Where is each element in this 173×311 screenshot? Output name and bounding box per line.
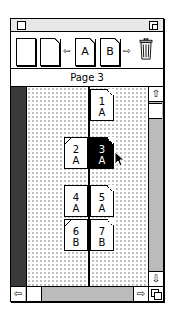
page-master: A [91,155,113,166]
title-bar[interactable] [11,19,163,32]
page-layout-window: ⇦ A B ⇨ Page 3 1 A 2 A 3 A [10,18,164,302]
right-arrow-icon[interactable]: ⇨ [123,47,131,56]
blank-page-icon[interactable] [16,38,36,66]
scroll-up-button[interactable]: ⇧ [149,87,163,102]
page-number: 4 [65,192,87,203]
page-number: 7 [91,226,113,237]
page-master: A [65,203,87,214]
master-a-icon[interactable]: A [75,38,95,66]
folded-page-icon[interactable] [40,38,60,66]
page-7[interactable]: 7 B [90,219,114,251]
page-2[interactable]: 2 A [64,137,88,169]
page-number: 1 [91,96,113,107]
page-spreads-area[interactable]: 1 A 2 A 3 A 4 A 5 A 6 B 7 B [11,87,148,286]
page-number: 6 [65,226,87,237]
master-b-icon[interactable]: B [100,38,120,66]
horizontal-scrollbar[interactable]: ⇦ ⇨ [11,286,148,301]
pasteboard-strip [11,87,27,286]
current-page-label: Page 3 [11,69,163,87]
page-master: A [91,203,113,214]
scroll-left-button[interactable]: ⇦ [11,287,25,301]
horizontal-scroll-thumb[interactable] [26,287,42,301]
page-number: 3 [91,144,113,155]
trash-icon[interactable] [139,38,153,60]
scroll-down-button[interactable]: ⇩ [149,271,163,286]
master-a-label: A [81,45,89,58]
close-box[interactable] [17,21,26,30]
page-master: A [65,155,87,166]
page-number: 5 [91,192,113,203]
page-6[interactable]: 6 B [64,219,88,251]
page-5[interactable]: 5 A [90,185,114,217]
page-4[interactable]: 4 A [64,185,88,217]
vertical-scrollbar[interactable]: ⇧ ⇩ [148,87,163,286]
master-b-label: B [106,45,114,58]
scroll-right-button[interactable]: ⇨ [133,287,148,301]
left-arrow-icon[interactable]: ⇦ [63,47,71,56]
page-number: 2 [65,144,87,155]
vertical-scroll-thumb[interactable] [149,103,162,119]
page-master: B [91,237,113,248]
page-3-selected[interactable]: 3 A [90,137,114,169]
size-box[interactable] [148,286,163,301]
zoom-box[interactable] [149,21,158,30]
page-master: A [91,107,113,118]
page-1[interactable]: 1 A [90,89,114,121]
arrow-cursor-icon [114,151,126,167]
page-master: B [65,237,87,248]
toolbar: ⇦ A B ⇨ [11,32,163,69]
